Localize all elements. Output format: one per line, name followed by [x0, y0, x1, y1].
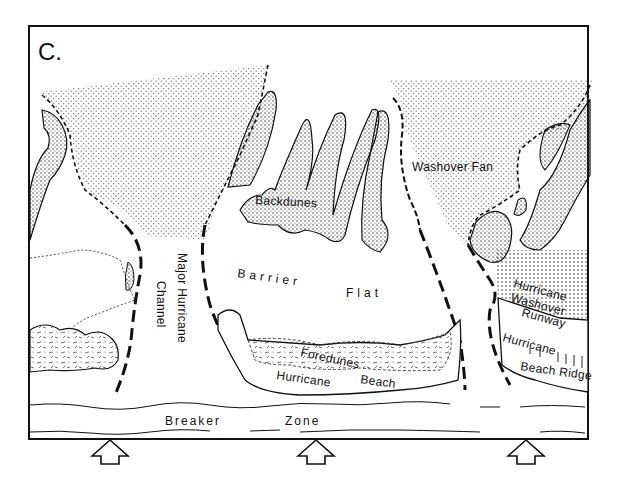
- panel-label: C.: [38, 38, 62, 65]
- label-washover-fan: Washover Fan: [412, 160, 493, 174]
- barrier-island-diagram: C. Wash: [0, 0, 626, 494]
- wave-arrow-icon: [508, 440, 544, 464]
- wave-arrow-icon: [92, 440, 128, 464]
- label-zone: Zone: [285, 414, 320, 428]
- wave-arrow-icon: [298, 440, 334, 464]
- label-breaker: Breaker: [165, 414, 221, 428]
- label-flat: Flat: [346, 286, 382, 300]
- label-channel: Channel: [154, 281, 168, 328]
- label-major-hurricane: Major Hurricane: [175, 253, 189, 343]
